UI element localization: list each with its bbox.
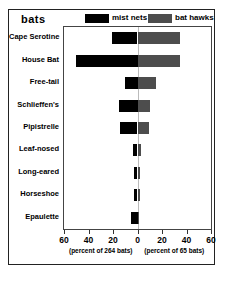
axis-tick-label: 40 xyxy=(182,235,191,245)
category-label: Long-eared xyxy=(9,167,59,176)
bar-segment-bat-hawks xyxy=(138,32,181,44)
bar-segment-bat-hawks xyxy=(138,55,181,67)
chart-title: bats xyxy=(21,13,46,25)
axis-tick-label: 60 xyxy=(206,235,215,245)
value-axis: 6040200204060(percent of 264 bats)(perce… xyxy=(63,230,212,264)
axis-tick-mark xyxy=(211,230,212,234)
bar-segment-bat-hawks xyxy=(138,122,149,134)
legend-swatch-icon-mist-nets xyxy=(85,14,109,23)
category-axis-labels: Cape SerotineHouse BatFree-tailSchlieffe… xyxy=(9,26,59,230)
plot-area xyxy=(63,26,212,230)
axis-tick-mark xyxy=(113,230,114,234)
bar-row xyxy=(64,122,211,134)
bar-row xyxy=(64,55,211,67)
axis-tick-mark xyxy=(89,230,90,234)
bar-segment-mist-nets xyxy=(125,77,137,89)
axis-caption-right: (percent of 65 bats) xyxy=(144,247,204,254)
bar-row xyxy=(64,167,211,179)
bar-row xyxy=(64,144,211,156)
bar-segment-bat-hawks xyxy=(138,212,139,224)
axis-tick-mark xyxy=(162,230,163,234)
chart-figure: bats mist nets bat hawks Cape SerotineHo… xyxy=(8,9,215,265)
category-label: Epaulette xyxy=(9,212,59,221)
axis-tick-mark xyxy=(187,230,188,234)
category-label: House Bat xyxy=(9,55,59,64)
bar-segment-mist-nets xyxy=(119,100,137,112)
bar-row xyxy=(64,189,211,201)
bar-segment-mist-nets xyxy=(112,32,138,44)
axis-caption-left: (percent of 264 bats) xyxy=(69,247,133,254)
category-label: Horseshoe xyxy=(9,189,59,198)
axis-tick-label: 60 xyxy=(59,235,68,245)
axis-tick-mark xyxy=(64,230,65,234)
category-label: Free-tail xyxy=(9,77,59,86)
bar-segment-bat-hawks xyxy=(138,77,156,89)
bar-segment-bat-hawks xyxy=(138,100,150,112)
bar-segment-bat-hawks xyxy=(138,189,140,201)
category-label: Pipistrelle xyxy=(9,122,59,131)
bar-segment-mist-nets xyxy=(76,55,137,67)
axis-tick-label: 40 xyxy=(84,235,93,245)
category-label: Schlieffen's xyxy=(9,100,59,109)
bar-segment-bat-hawks xyxy=(138,144,142,156)
category-label: Leaf-nosed xyxy=(9,144,59,153)
bar-row xyxy=(64,32,211,44)
bar-row xyxy=(64,77,211,89)
bar-segment-bat-hawks xyxy=(138,167,140,179)
legend-label-mist-nets: mist nets xyxy=(112,13,147,22)
bar-segment-mist-nets xyxy=(120,122,137,134)
axis-tick-mark xyxy=(138,230,139,234)
bar-row xyxy=(64,212,211,224)
axis-tick-label: 20 xyxy=(108,235,117,245)
legend-swatch-icon-bat-hawks xyxy=(148,14,172,23)
legend-label-bat-hawks: bat hawks xyxy=(175,13,214,22)
category-label: Cape Serotine xyxy=(9,32,59,41)
axis-tick-label: 20 xyxy=(157,235,166,245)
bar-row xyxy=(64,100,211,112)
axis-tick-label: 0 xyxy=(135,235,140,245)
